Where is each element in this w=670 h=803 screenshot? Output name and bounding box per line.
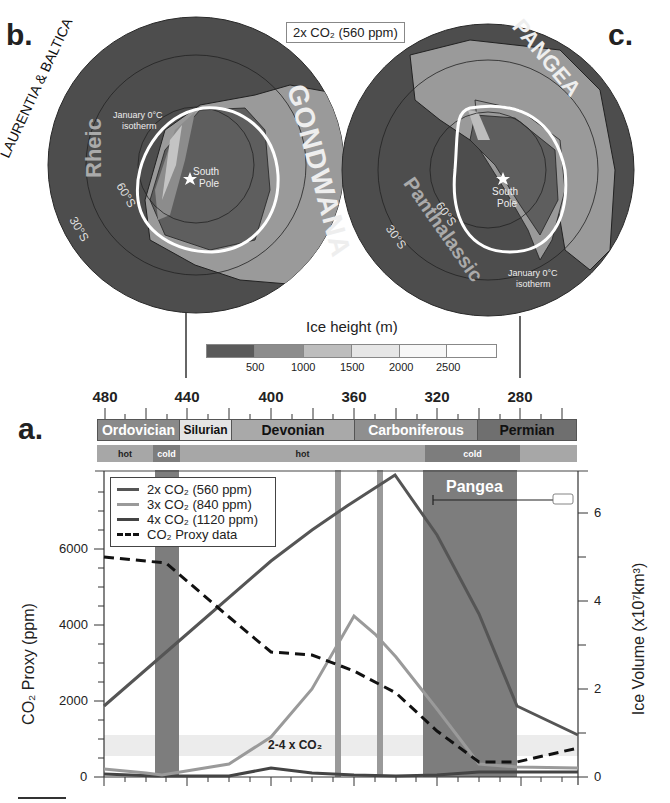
time-tick-400: 400 [258,388,283,405]
time-tick-360: 360 [341,388,366,405]
legend-swatch-2x [117,488,139,491]
shaded-devonian-bar [335,470,341,777]
isotherm-label-c2: isotherm [516,279,551,289]
colorbar-tick-500: 500 [246,361,264,373]
right-tick-4: 4 [594,593,601,608]
colorbar-cell-5 [447,344,497,358]
legend-swatch-3x [117,503,139,506]
left-tick-6000: 6000 [59,541,88,556]
left-tick-2000: 2000 [59,693,88,708]
south-pole-label-b2: Pole [199,178,219,189]
colorbar-tick-2000: 2000 [389,361,413,373]
colorbar-cell-2 [304,344,352,358]
left-tick-4000: 4000 [59,617,88,632]
period-silurian: Silurian [180,420,232,440]
time-tick-480: 480 [92,388,117,405]
pangea-label-chart: Pangea [446,478,503,496]
period-ordovician: Ordovician [98,420,180,440]
legend-item-3x: 3x CO₂ (840 ppm) [117,497,269,512]
left-tick-0: 0 [80,769,87,784]
right-tick-0: 0 [594,769,601,784]
rheic-ocean-label: Rheic [81,118,107,178]
legend-item-4x: 4x CO₂ (1120 ppm) [117,512,269,527]
colorbar-tick-1500: 1500 [340,361,364,373]
isotherm-label-b2: isotherm [122,121,157,131]
co2-band-label: 2-4 x CO₂ [268,738,322,752]
colorbar-tick-2500: 2500 [436,361,460,373]
legend-swatch-proxy [117,533,139,536]
left-axis-title: CO₂ Proxy (ppm) [20,603,38,725]
period-devonian: Devonian [232,420,355,440]
shaded-carboniferous-bar [377,470,383,777]
legend-swatch-4x [117,518,139,521]
colorbar-title: Ice height (m) [306,318,398,335]
south-pole-label-c2: Pole [497,198,517,209]
south-pole-label-c1: South [492,186,518,197]
chart-legend: 2x CO₂ (560 ppm) 3x CO₂ (840 ppm) 4x CO₂… [110,477,276,547]
south-pole-label-b1: South [193,166,219,177]
colorbar-cell-0 [207,344,255,358]
right-axis-title: Ice Volume (x10⁷km³) [630,563,648,716]
right-tick-2: 2 [594,681,601,696]
period-carboniferous: Carboniferous [355,420,478,440]
globe-b [30,17,345,313]
scale-bar [18,797,66,799]
timescale-ticks [95,406,585,420]
globe-c [342,24,634,316]
colorbar-cell-3 [352,344,400,358]
legend-item-proxy: CO₂ Proxy data [117,527,269,542]
time-tick-320: 320 [424,388,449,405]
legend-item-2x: 2x CO₂ (560 ppm) [117,482,269,497]
time-tick-280: 280 [507,388,532,405]
isotherm-label-c1: January 0°C [508,268,558,278]
right-tick-6: 6 [594,505,601,520]
ice-height-colorbar [206,344,497,358]
colorbar-cell-4 [400,344,447,358]
colorbar-tick-1000: 1000 [291,361,315,373]
main-chart [0,460,670,803]
colorbar-cell-1 [255,344,304,358]
time-tick-440: 440 [174,388,199,405]
isotherm-label-b1: January 0°C [113,110,163,120]
pointing-hand-icon [553,494,573,504]
geologic-period-bar: Ordovician Silurian Devonian Carbonifero… [97,419,577,441]
period-permian: Permian [478,420,576,440]
